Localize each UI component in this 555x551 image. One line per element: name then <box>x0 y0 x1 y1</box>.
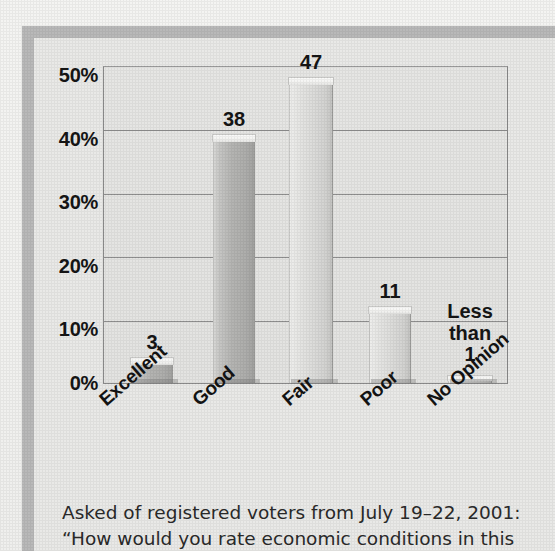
bar-fair[interactable]: 47 <box>289 67 333 383</box>
bar-no-opinion[interactable]: Less than 1 <box>448 67 492 383</box>
y-tick-50: 50% <box>59 64 98 87</box>
bars-layer: 3 38 47 <box>104 67 507 383</box>
y-tick-20: 20% <box>59 255 98 278</box>
bar-body-fair <box>289 84 333 383</box>
bar-cap-fair <box>288 77 334 85</box>
bar-cap-good <box>212 134 256 142</box>
y-axis: 50% 40% 30% 20% 10% 0% <box>40 60 98 392</box>
bar-label-good: 38 <box>223 109 245 130</box>
y-tick-0: 0% <box>70 372 98 395</box>
plot-area: 3 38 47 <box>103 66 508 384</box>
caption-line-1: Asked of registered voters from July 19–… <box>62 500 542 526</box>
bar-poor[interactable]: 11 <box>369 67 411 383</box>
bar-body-good <box>213 141 255 383</box>
page-background: 50% 40% 30% 20% 10% 0% 3 <box>0 0 555 551</box>
bar-label-poor: 11 <box>379 281 400 302</box>
caption-line-2: “How would you rate economic conditions … <box>62 526 542 551</box>
y-tick-40: 40% <box>59 128 98 151</box>
bar-cap-poor <box>368 306 412 314</box>
bar-good[interactable]: 38 <box>213 67 255 383</box>
bar-label-fair: 47 <box>300 52 322 73</box>
label-less: Less <box>447 300 493 322</box>
x-axis: Excellent Good Fair Poor No Opinion <box>103 384 508 504</box>
bar-chart: 50% 40% 30% 20% 10% 0% 3 <box>0 0 555 551</box>
y-tick-10: 10% <box>59 318 98 341</box>
chart-caption: Asked of registered voters from July 19–… <box>62 500 542 551</box>
y-tick-30: 30% <box>59 191 98 214</box>
bar-excellent[interactable]: 3 <box>131 67 173 383</box>
